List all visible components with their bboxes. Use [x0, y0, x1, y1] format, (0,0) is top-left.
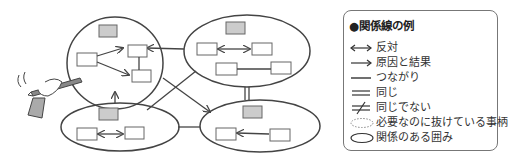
legend-label: 同じ	[376, 86, 398, 100]
legend-item-cause-effect: 原因と結果	[344, 56, 499, 70]
arrow-icon	[348, 56, 374, 70]
legend-label: 原因と結果	[376, 56, 431, 70]
dotted-ellipse-icon	[348, 116, 374, 130]
group-bottom-left	[77, 108, 144, 140]
legend-box: ●関係線の例 反対 原因と結果 つながり 同じ 同じでない 必要なのに抜けている…	[343, 10, 498, 151]
ellipse-icon	[348, 131, 374, 145]
legend-label: 関係のある囲み	[376, 131, 453, 145]
legend-label: 同じでない	[376, 101, 431, 115]
hand-pen-icon	[18, 72, 82, 118]
group-top-right	[197, 22, 291, 75]
group-top-left	[77, 25, 151, 82]
legend-item-not-same: 同じでない	[344, 101, 499, 115]
line-icon	[348, 71, 374, 85]
legend-item-related-group: 関係のある囲み	[344, 131, 499, 145]
relationship-diagram	[0, 0, 340, 165]
legend-item-opposite: 反対	[344, 41, 499, 55]
legend-label: 必要なのに抜けている事柄	[376, 116, 508, 130]
group-connections	[115, 48, 249, 127]
legend-item-connection: つながり	[344, 71, 499, 85]
legend-title: ●関係線の例	[349, 17, 414, 33]
legend-item-same: 同じ	[344, 86, 499, 100]
legend-label: つながり	[376, 71, 420, 85]
double-line-icon	[348, 86, 374, 100]
legend-item-missing: 必要なのに抜けている事柄	[344, 116, 499, 130]
group-bottom-right	[216, 106, 290, 141]
double-arrow-icon	[348, 41, 374, 55]
not-equal-icon	[348, 101, 374, 115]
legend-label: 反対	[376, 41, 398, 55]
